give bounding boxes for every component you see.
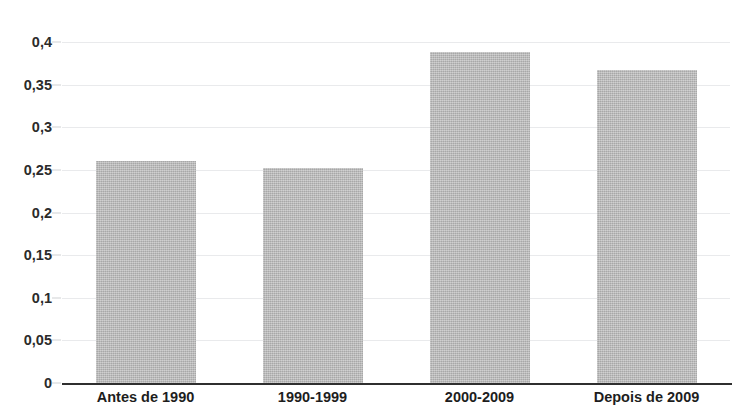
gridline — [62, 42, 730, 43]
x-axis-tick-label: Depois de 2009 — [563, 389, 730, 405]
y-axis-tick-label: 0,35 — [0, 77, 52, 93]
y-axis-tick-label: 0,2 — [0, 205, 52, 221]
x-axis-tick-label: 2000-2009 — [396, 389, 563, 405]
y-axis-tick-mark — [52, 127, 61, 128]
y-axis-tick-mark — [52, 84, 61, 85]
y-axis-tick-mark — [52, 42, 61, 43]
bar-chart: 00,050,10,150,20,250,30,350,4Antes de 19… — [0, 0, 734, 415]
y-axis-tick-mark — [52, 297, 61, 298]
x-axis-tick-label: Antes de 1990 — [62, 389, 229, 405]
y-axis-tick-mark — [52, 212, 61, 213]
y-axis-tick-mark — [52, 340, 61, 341]
bar — [263, 168, 363, 383]
x-axis-line — [62, 383, 732, 385]
y-axis-tick-label: 0,15 — [0, 247, 52, 263]
y-axis-tick-mark — [52, 383, 61, 384]
y-axis-tick-label: 0,3 — [0, 119, 52, 135]
x-axis-tick-label: 1990-1999 — [229, 389, 396, 405]
y-axis-tick-mark — [52, 169, 61, 170]
y-axis-tick-label: 0 — [0, 375, 52, 391]
bar — [96, 161, 196, 383]
y-axis-tick-label: 0,05 — [0, 332, 52, 348]
bar — [430, 52, 530, 383]
y-axis-tick-label: 0,1 — [0, 290, 52, 306]
y-axis-tick-mark — [52, 255, 61, 256]
y-axis-tick-label: 0,4 — [0, 34, 52, 50]
bar — [597, 70, 697, 383]
y-axis-tick-label: 0,25 — [0, 162, 52, 178]
